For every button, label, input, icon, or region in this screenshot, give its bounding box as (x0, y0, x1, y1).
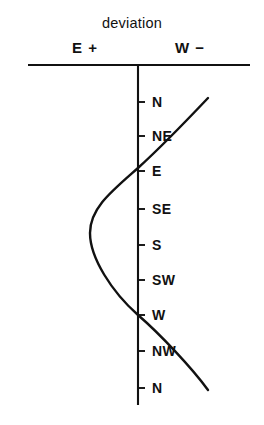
plot-canvas (0, 0, 264, 425)
deviation-figure: deviation E + W − N NE E SE S SW W NW N (0, 0, 264, 425)
tick-label-w: W (152, 308, 166, 322)
tick-label-n-upper: N (152, 95, 162, 109)
tick-label-se: SE (152, 202, 171, 216)
tick-label-ne: NE (152, 129, 172, 143)
tick-label-n-lower: N (152, 381, 162, 395)
deviation-curve (90, 98, 208, 390)
east-positive-axis-label: E + (72, 40, 98, 55)
tick-label-e: E (152, 164, 162, 178)
west-negative-axis-label: W − (175, 40, 205, 55)
tick-label-sw: SW (152, 273, 175, 287)
tick-label-s: S (152, 238, 162, 252)
tick-label-nw: NW (152, 344, 176, 358)
chart-title: deviation (0, 16, 264, 31)
axes-group (28, 65, 250, 405)
